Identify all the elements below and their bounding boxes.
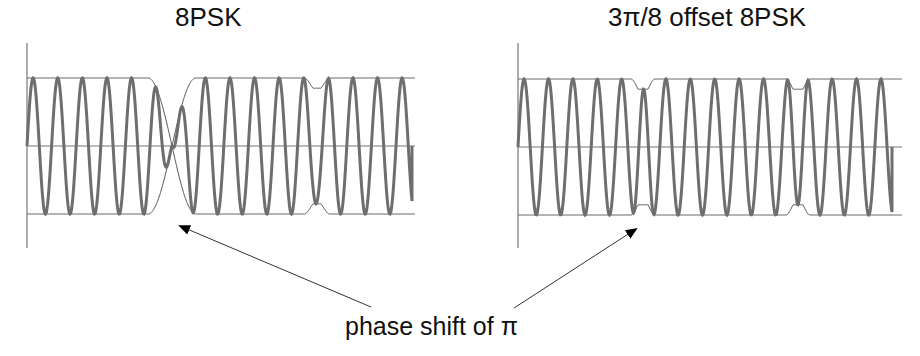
waveform-diagram xyxy=(0,0,920,356)
annotation-caption: phase shift of π xyxy=(345,312,518,341)
arrow-to-8psk-crossing xyxy=(180,226,371,307)
arrow-to-offset-transition xyxy=(514,229,636,308)
panel-offset-8psk xyxy=(518,43,902,248)
panel-8psk xyxy=(27,43,415,248)
